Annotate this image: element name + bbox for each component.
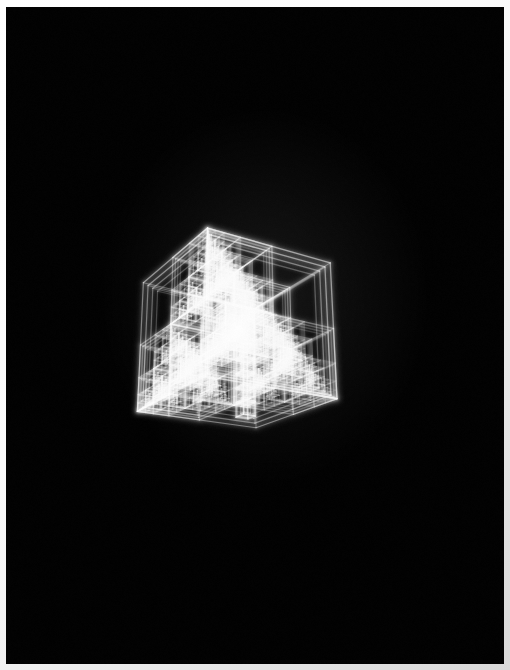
artwork-canvas <box>0 0 510 670</box>
wireframe-render <box>6 7 504 664</box>
render-plate <box>6 7 504 664</box>
